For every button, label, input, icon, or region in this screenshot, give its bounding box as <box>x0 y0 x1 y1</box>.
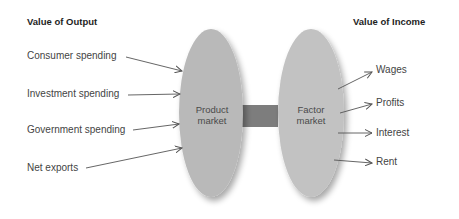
product-market-label: Product market <box>186 104 238 126</box>
factor-market-label: Factor market <box>285 104 337 126</box>
value-of-income-header: Value of Income <box>353 16 425 27</box>
product-market-line1: Product <box>186 104 238 115</box>
label-interest: Interest <box>376 127 409 139</box>
label-profits: Profits <box>376 97 404 109</box>
label-wages: Wages <box>376 64 407 76</box>
arrow-wages <box>338 72 372 89</box>
arrow-government-spending <box>133 124 179 130</box>
arrow-rent <box>334 160 372 163</box>
arrow-profits <box>340 104 372 113</box>
arrow-investment-spending <box>128 94 180 95</box>
value-of-output-header: Value of Output <box>27 16 97 27</box>
factor-market-line1: Factor <box>285 104 337 115</box>
label-rent: Rent <box>376 156 397 168</box>
label-government-spending: Government spending <box>27 124 125 136</box>
label-net-exports: Net exports <box>27 162 78 174</box>
factor-market-line2: market <box>285 115 337 126</box>
connector-bar <box>240 105 278 127</box>
label-consumer-spending: Consumer spending <box>27 50 117 62</box>
arrow-net-exports <box>86 148 182 168</box>
label-investment-spending: Investment spending <box>27 88 119 100</box>
product-market-line2: market <box>186 115 238 126</box>
arrow-consumer-spending <box>126 57 182 71</box>
